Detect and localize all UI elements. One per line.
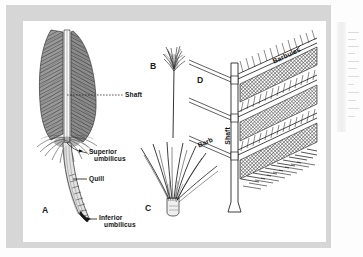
panel-b-filoplume [163,46,185,138]
panel-letter-b: B [150,62,156,71]
panel-c-down-feather [141,142,218,216]
page-edge-artifact [337,22,346,132]
illustration-plate: Shaft Superior umbilicus Quill Inferior … [17,16,320,237]
figure-root: Shaft Superior umbilicus Quill Inferior … [0,0,363,257]
label-quill: Quill [89,175,104,182]
page-edge-text-marks [348,30,361,125]
label-shaft-a: Shaft [125,91,142,98]
label-inferior-umbilicus: Inferior umbilicus [99,214,136,228]
panel-letter-a: A [42,206,48,215]
label-inferior-umbilicus-line1: Inferior [99,214,136,221]
label-superior-umbilicus: Superior umbilicus [89,148,126,162]
panel-d-barb-detail [189,30,317,212]
label-shaft-d: Shaft [224,127,231,145]
panel-letter-c: C [145,204,151,213]
label-inferior-umbilicus-line2: umbilicus [99,221,136,228]
panel-letter-d: D [197,76,203,85]
label-superior-umbilicus-line2: umbilicus [89,155,126,162]
panel-a-contour-feather [37,30,123,222]
feather-illustration-svg [17,16,320,237]
label-superior-umbilicus-line1: Superior [89,148,126,155]
